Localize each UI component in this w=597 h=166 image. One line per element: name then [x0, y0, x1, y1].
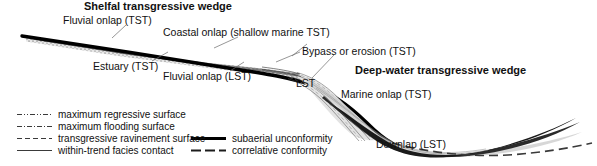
legend-label-maximum-regressive-surface: maximum regressive surface: [58, 109, 186, 120]
shelfal-transgressive-wedge-title: Shelfal transgressive wedge: [84, 1, 232, 12]
annotation-marine-onlap-tst: Marine onlap (TST): [341, 89, 431, 100]
annotation-bypass-or-erosion-tst: Bypass or erosion (TST): [302, 46, 416, 57]
legend-label-maximum-flooding-surface: maximum flooding surface: [58, 121, 175, 132]
annotation-fluvial-onlap-lst: Fluvial onlap (LST): [163, 71, 251, 82]
legend-label-subaerial-unconformity: subaerial unconformity: [232, 133, 333, 144]
annotation-fluvial-onlap-tst: Fluvial onlap (TST): [63, 15, 152, 26]
annotation-lst: LST: [296, 78, 315, 89]
figure-canvas: Shelfal transgressive wedge Deep-water t…: [0, 0, 597, 166]
legend-label-within-trend-facies-contact: within-trend facies contact: [58, 145, 174, 156]
annotation-downlap-lst: Downlap (LST): [376, 139, 446, 150]
annotation-estuary-tst: Estuary (TST): [93, 61, 158, 72]
legend-label-transgressive-ravinement-surface: transgressive ravinement surface: [58, 133, 205, 144]
legend-label-correlative-conformity: correlative conformity: [232, 145, 327, 156]
annotation-coastal-onlap-tst: Coastal onlap (shallow marine TST): [163, 27, 330, 38]
deep-water-transgressive-wedge-title: Deep-water transgressive wedge: [355, 65, 526, 76]
